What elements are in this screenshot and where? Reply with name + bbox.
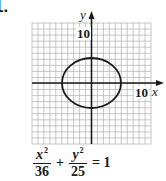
term2-denominator: 25 <box>69 163 87 179</box>
x-tick-label: 10 <box>134 86 149 99</box>
plus-sign: + <box>56 155 64 171</box>
y-axis-label: y <box>80 8 86 21</box>
term1-numerator: x <box>36 147 43 162</box>
term1-denominator: 36 <box>33 163 51 179</box>
ellipse-equation: x2 36 + y2 25 = 1 <box>33 147 115 179</box>
y-axis-arrow-icon <box>89 11 95 19</box>
fraction-x-term: x2 36 <box>33 147 51 179</box>
term1-exponent: 2 <box>44 146 48 155</box>
y-tick-label: 10 <box>76 27 91 40</box>
term2-exponent: 2 <box>80 146 84 155</box>
x-axis-label: x <box>152 85 158 98</box>
term2-numerator: y <box>72 147 78 162</box>
fraction-y-term: y2 25 <box>69 147 87 179</box>
equals-one: = 1 <box>92 155 110 171</box>
